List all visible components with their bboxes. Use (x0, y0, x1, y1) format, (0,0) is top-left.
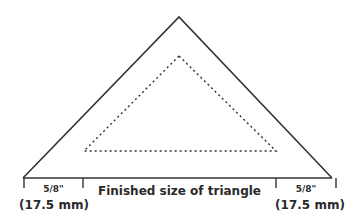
right-seam-mm: (17.5 mm) (270, 198, 350, 212)
finished-size-label: Finished size of triangle (83, 184, 276, 198)
left-seam-mm: (17.5 mm) (14, 198, 94, 212)
right-seam-fraction: 5/8" (276, 184, 336, 194)
inner-triangle-finished-size (84, 56, 276, 151)
outer-triangle (23, 17, 332, 178)
left-seam-fraction: 5/8" (24, 184, 83, 194)
